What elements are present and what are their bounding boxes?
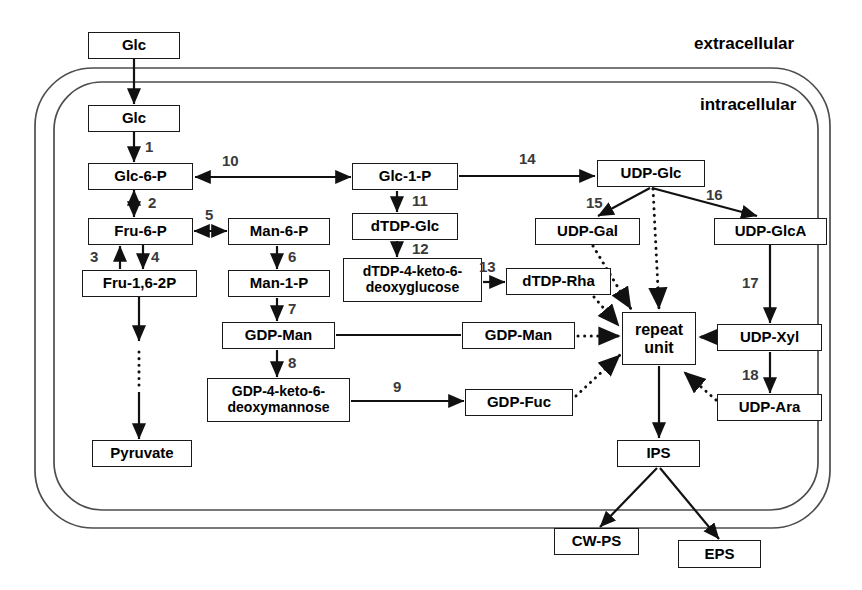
enzyme-number-9: 9 (393, 378, 401, 395)
enzyme-number-11: 11 (412, 192, 428, 209)
node-gdp-4-keto[interactable]: GDP-4-keto-6-deoxymannose (207, 378, 350, 422)
node-gdp-fuc[interactable]: GDP-Fuc (465, 389, 573, 416)
node-label-gdp-fuc: GDP-Fuc (484, 394, 554, 411)
enzyme-number-1: 1 (145, 138, 153, 155)
node-label-man-1-p: Man-1-P (247, 275, 311, 292)
node-eps[interactable]: EPS (678, 540, 761, 568)
node-label-dtdp-glc: dTDP-Glc (368, 218, 442, 235)
enzyme-number-7: 7 (288, 300, 296, 317)
node-udp-xyl[interactable]: UDP-Xyl (717, 324, 822, 351)
node-repeat-unit[interactable]: repeatunit (622, 312, 696, 365)
node-gdp-man-2[interactable]: GDP-Man (462, 322, 575, 349)
node-label-glc-6-p: Glc-6-P (111, 168, 170, 185)
node-udp-gal[interactable]: UDP-Gal (535, 218, 640, 245)
enzyme-number-3: 3 (90, 248, 98, 265)
enzyme-number-13: 13 (479, 258, 496, 275)
enzyme-number-2: 2 (148, 194, 156, 211)
node-dtdp-4-keto[interactable]: dTDP-4-keto-6-deoxyglucose (343, 258, 482, 302)
enzyme-number-6: 6 (288, 248, 296, 265)
node-label-gdp-man: GDP-Man (242, 327, 316, 344)
edge-udp-glc-to-repeat (653, 189, 659, 309)
enzyme-number-17: 17 (742, 274, 759, 291)
node-udp-ara[interactable]: UDP-Ara (717, 394, 822, 421)
node-label-glc-in: Glc (119, 110, 149, 127)
node-label-udp-glc: UDP-Glc (618, 165, 685, 182)
edge-dtdp-rha-to-repeat (594, 297, 619, 326)
region-label-extracellular: extracellular (694, 34, 794, 54)
edge-ips-to-cw-ps (600, 468, 657, 527)
node-label-pyruvate: Pyruvate (107, 445, 176, 462)
enzyme-number-8: 8 (288, 354, 296, 371)
node-label-eps: EPS (701, 546, 737, 563)
enzyme-number-15: 15 (586, 194, 603, 211)
node-dtdp-glc[interactable]: dTDP-Glc (352, 213, 458, 240)
node-udp-glca[interactable]: UDP-GlcA (714, 218, 827, 245)
enzyme-number-4: 4 (151, 248, 159, 265)
node-label-udp-gal: UDP-Gal (554, 223, 621, 240)
node-label-gdp-man-2: GDP-Man (482, 327, 556, 344)
node-label-glc-1-p: Glc-1-P (376, 168, 435, 185)
node-label-cw-ps: CW-PS (569, 533, 625, 550)
enzyme-number-12: 12 (412, 240, 429, 257)
node-man-1-p[interactable]: Man-1-P (228, 270, 330, 297)
node-fru-16-2p[interactable]: Fru-1,6-2P (82, 270, 197, 297)
node-label-glc-out: Glc (119, 37, 149, 54)
enzyme-number-5: 5 (205, 206, 213, 223)
edge-udp-glc-to-udp-glca (652, 188, 757, 216)
pathway-diagram: GlcGlcGlc-6-PFru-6-PFru-1,6-2PPyruvateMa… (0, 0, 862, 590)
node-label-udp-glca: UDP-GlcA (732, 223, 810, 240)
node-label-man-6-p: Man-6-P (247, 223, 311, 240)
node-glc-6-p[interactable]: Glc-6-P (88, 163, 193, 190)
node-label-dtdp-4-keto: dTDP-4-keto-6-deoxyglucose (360, 264, 466, 295)
edge-udp-glc-to-udp-gal (598, 188, 650, 216)
node-gdp-man[interactable]: GDP-Man (222, 322, 335, 349)
enzyme-number-18: 18 (742, 366, 759, 383)
edge-udp-ara-to-repeat (684, 372, 716, 400)
enzyme-number-10: 10 (222, 152, 239, 169)
node-label-repeat-unit: repeatunit (632, 321, 686, 357)
node-pyruvate[interactable]: Pyruvate (92, 440, 192, 467)
node-glc-out[interactable]: Glc (88, 32, 180, 59)
node-glc-1-p[interactable]: Glc-1-P (352, 163, 458, 190)
node-label-dtdp-rha: dTDP-Rha (519, 273, 598, 290)
node-man-6-p[interactable]: Man-6-P (228, 218, 330, 245)
node-label-ips: IPS (643, 445, 673, 462)
node-ips[interactable]: IPS (617, 440, 700, 467)
node-label-udp-ara: UDP-Ara (736, 399, 804, 416)
edge-gdp-fuc-to-repeat (576, 355, 620, 396)
node-udp-glc[interactable]: UDP-Glc (597, 160, 705, 187)
node-label-fru-6-p: Fru-6-P (111, 223, 170, 240)
node-cw-ps[interactable]: CW-PS (554, 528, 639, 555)
node-label-udp-xyl: UDP-Xyl (737, 329, 802, 346)
node-glc-in[interactable]: Glc (88, 105, 180, 132)
node-label-gdp-4-keto: GDP-4-keto-6-deoxymannose (225, 384, 333, 415)
node-fru-6-p[interactable]: Fru-6-P (88, 218, 193, 245)
node-label-fru-16-2p: Fru-1,6-2P (100, 275, 179, 292)
region-label-intracellular: intracellular (700, 95, 796, 115)
enzyme-number-14: 14 (519, 150, 536, 167)
node-dtdp-rha[interactable]: dTDP-Rha (506, 268, 611, 295)
enzyme-number-16: 16 (706, 186, 723, 203)
